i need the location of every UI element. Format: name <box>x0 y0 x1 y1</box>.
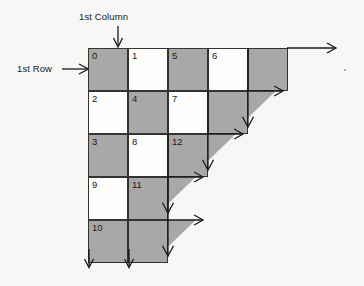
grid-cell <box>248 48 288 91</box>
scan-speck <box>344 69 346 71</box>
grid-cell: 7 <box>168 91 208 134</box>
grid-cell-number: 0 <box>92 51 97 61</box>
grid-cell <box>128 220 168 263</box>
grid-cell: 0 <box>88 48 128 91</box>
grid-cell: 11 <box>128 177 168 220</box>
grid-cell: 12 <box>168 134 208 177</box>
grid-cell: 2 <box>88 91 128 134</box>
grid-cell: 9 <box>88 177 128 220</box>
grid-cell: 6 <box>208 48 248 91</box>
grid-cell-number: 4 <box>132 94 137 104</box>
diagram-canvas: 1st Column 1st Row 0156247381291110 <box>0 0 364 286</box>
grid-cell-number: 10 <box>92 223 103 233</box>
grid-cell: 5 <box>168 48 208 91</box>
grid-cell: 4 <box>128 91 168 134</box>
grid-cell-number: 2 <box>92 94 97 104</box>
first-column-label: 1st Column <box>79 11 128 22</box>
grid-cell <box>208 91 248 134</box>
grid-cell-number: 1 <box>132 51 137 61</box>
grid-cell: 8 <box>128 134 168 177</box>
grid-cell-number: 6 <box>212 51 217 61</box>
grid-cell-number: 8 <box>132 137 137 147</box>
grid-cell-number: 3 <box>92 137 97 147</box>
grid-cell-number: 9 <box>92 180 97 190</box>
grid-cell-number: 5 <box>172 51 177 61</box>
row-continuation-arrow-icon <box>287 42 347 58</box>
grid-cell-number: 11 <box>132 180 142 190</box>
first-row-pointer-arrow-icon <box>62 60 90 78</box>
first-row-label: 1st Row <box>17 63 52 74</box>
grid-cell-number: 12 <box>172 137 183 147</box>
grid-cell: 3 <box>88 134 128 177</box>
row-wrap-arrow-icon <box>167 176 231 272</box>
grid-cell: 10 <box>88 220 128 263</box>
grid-cell-number: 7 <box>172 94 177 104</box>
grid-cell: 1 <box>128 48 168 91</box>
first-column-pointer-arrow-icon <box>108 26 128 50</box>
